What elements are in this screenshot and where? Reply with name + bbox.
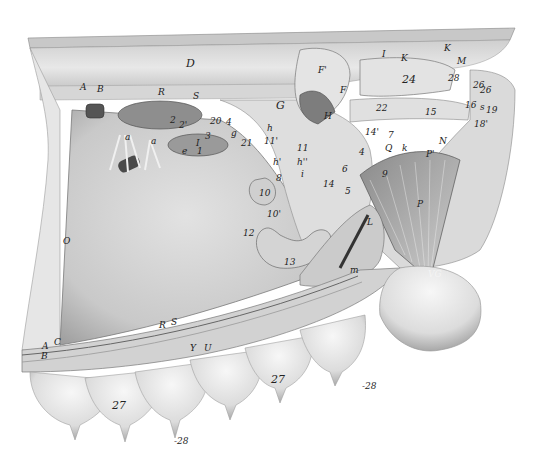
- anatomy-label-A: A: [80, 83, 87, 92]
- anatomy-label-num24: 24: [402, 74, 416, 85]
- anatomy-label-num28b: -28: [362, 382, 377, 391]
- anatomy-label-num1: 1: [197, 147, 203, 156]
- anatomy-label-num5: 5: [345, 187, 351, 196]
- anatomy-label-S1: S: [193, 92, 199, 101]
- anatomy-label-F2: F': [318, 66, 327, 75]
- anatomy-label-num18p: 18': [474, 120, 488, 129]
- anatomy-label-G: G: [276, 100, 285, 111]
- anatomy-label-num2b: 2': [179, 121, 187, 130]
- anatomy-label-num19: 19: [486, 106, 497, 115]
- anatomy-label-num15: 15: [425, 108, 436, 117]
- anatomy-label-num8: 8: [276, 174, 282, 183]
- anatomy-label-s1: s: [480, 103, 485, 112]
- anatomy-label-g: g: [231, 129, 237, 138]
- anatomy-label-B2: B: [41, 352, 48, 361]
- anatomy-label-e: e: [182, 147, 187, 156]
- anatomy-label-F: F: [340, 86, 346, 95]
- anatomy-label-num28a: -28: [174, 437, 189, 446]
- anatomy-label-N: N: [439, 137, 447, 146]
- anatomy-label-H: H: [324, 112, 332, 121]
- anatomy-label-num3: 3: [205, 132, 211, 141]
- anatomy-label-num10: 10: [259, 189, 270, 198]
- anatomy-label-P: P: [417, 200, 423, 209]
- anatomy-label-Q: Q: [385, 144, 392, 153]
- anatomy-label-num4a: 4: [226, 118, 232, 127]
- anatomy-label-i: i: [301, 170, 304, 179]
- anatomy-label-num21: 21: [241, 139, 252, 148]
- anatomy-label-num20: 20: [210, 117, 221, 126]
- anatomy-label-num12: 12: [243, 229, 254, 238]
- anatomy-label-num6: 6: [342, 165, 348, 174]
- anatomy-label-P1: P': [426, 150, 435, 159]
- anatomy-label-num28: 28: [448, 74, 459, 83]
- anatomy-label-a1: a: [125, 133, 130, 142]
- anatomy-label-K2: K: [444, 44, 451, 53]
- anatomy-label-R1: R: [158, 88, 165, 97]
- anatomy-label-Y: Y: [190, 344, 196, 353]
- anatomy-label-B1: B: [97, 85, 104, 94]
- anatomical-figure: DABRS22'204aae1I3g21h11'GF'FHIKKM2428262…: [0, 0, 537, 465]
- anatomy-label-U: U: [204, 344, 212, 353]
- anatomy-label-num14: 14: [323, 180, 334, 189]
- anatomy-label-num14p: 14': [365, 128, 379, 137]
- anatomy-label-num27b: 27: [271, 374, 285, 385]
- anatomy-label-A2: A: [42, 342, 49, 351]
- anatomy-label-S2: S: [171, 318, 177, 327]
- anatomy-label-C: C: [54, 338, 61, 347]
- anatomy-label-num4b: 4: [359, 148, 365, 157]
- anatomy-label-num22: 22: [376, 104, 387, 113]
- anatomy-label-O: O: [63, 237, 70, 246]
- anatomy-label-num13: 13: [284, 258, 295, 267]
- anatomy-label-K1: K: [401, 54, 408, 63]
- anatomy-label-num2: 2: [170, 116, 176, 125]
- anatomy-label-h2: h': [273, 158, 281, 167]
- anatomy-label-num9: 9: [382, 170, 388, 179]
- anatomy-label-M: M: [457, 57, 466, 66]
- anatomy-label-h1: h: [267, 124, 273, 133]
- anatomy-label-num7: 7: [388, 131, 394, 140]
- anatomy-label-I1: I: [382, 50, 386, 59]
- anatomy-label-num27a: 27: [112, 400, 126, 411]
- anatomy-label-h3: h'': [297, 158, 308, 167]
- anatomy-label-num11: 11: [297, 144, 308, 153]
- anatomy-label-num10p: 10': [267, 210, 281, 219]
- illustration-drawing: [0, 0, 537, 465]
- anatomy-label-a2: a: [151, 137, 156, 146]
- anatomy-label-D: D: [186, 58, 195, 69]
- anatomy-label-m: m: [350, 266, 359, 275]
- anatomy-label-k: k: [402, 144, 407, 153]
- anatomy-label-num16: 16: [465, 101, 476, 110]
- anatomy-label-R2: R: [159, 321, 166, 330]
- anatomy-label-L: L: [367, 218, 373, 227]
- anatomy-label-num26b: 26: [480, 86, 491, 95]
- anatomy-label-numI: I: [196, 139, 200, 148]
- anatomy-label-num11p: 11': [264, 137, 278, 146]
- anatomy-label-VG: VG: [428, 270, 442, 279]
